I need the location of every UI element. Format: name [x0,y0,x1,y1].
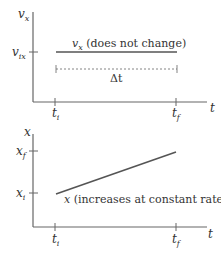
delta-t-label: Δt [110,72,123,85]
velocity-time-graph: vx t vix vx (does not change) Δt ti tf [12,7,215,122]
position-line-label: x (increases at constant rate) [64,193,221,206]
top-y-axis-label: vx [18,7,30,23]
position-time-graph: x t xf xi x (increases at constant rate)… [16,125,221,248]
bottom-x-axis-label: t [208,227,213,241]
kinematics-diagram: vx t vix vx (does not change) Δt ti tf x… [0,0,221,255]
bottom-tf-label: tf [172,232,182,248]
xi-tick-label: xi [16,186,26,202]
vix-tick-label: vix [12,45,26,61]
top-x-axis-label: t [210,101,215,115]
position-line [56,152,176,194]
xf-tick-label: xf [16,144,28,160]
top-ti-label: ti [52,106,60,122]
bottom-y-axis-label: x [24,125,31,139]
constant-velocity-label: vx (does not change) [72,37,186,52]
bottom-ti-label: ti [52,232,60,248]
top-tf-label: tf [172,106,182,122]
